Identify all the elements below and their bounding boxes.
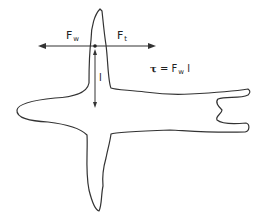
ft-main: F: [117, 29, 123, 42]
fw-sub: w: [73, 35, 79, 43]
label-lever-arm: l: [99, 73, 102, 83]
label-fw: Fw: [66, 30, 79, 43]
diagram-canvas: Fw Ft l τ = Fw l: [0, 0, 268, 223]
torque-equals: = F: [157, 63, 178, 74]
ft-sub: t: [124, 35, 127, 43]
body-outline-figure: [0, 0, 268, 223]
arrow-right-ft-icon: [148, 43, 156, 49]
arrow-left-fw-icon: [38, 43, 46, 49]
lever-arrow-down-icon: [93, 102, 97, 108]
lever-arrow-up-icon: [93, 49, 97, 55]
torque-symbol: τ: [150, 63, 157, 74]
body-outline: [17, 9, 250, 211]
lever-arm-text: l: [99, 72, 102, 83]
label-ft: Ft: [117, 30, 127, 43]
torque-equation: τ = Fw l: [150, 64, 190, 76]
torque-tail: l: [184, 63, 190, 74]
fw-main: F: [66, 29, 72, 42]
pivot-point: [93, 44, 97, 48]
